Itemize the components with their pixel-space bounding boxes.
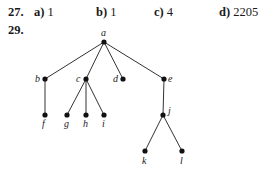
node-j	[160, 112, 165, 117]
node-b	[42, 76, 47, 81]
node-e	[161, 76, 166, 81]
node-k	[142, 148, 147, 153]
label-c: c	[76, 73, 81, 84]
node-c	[83, 76, 88, 81]
node-l	[179, 148, 184, 153]
label-k: k	[142, 155, 147, 166]
label-g: g	[64, 118, 69, 129]
tree-node-labels: a b c d e f g h i j k l	[35, 27, 183, 166]
label-i: i	[102, 118, 105, 129]
label-e: e	[168, 73, 173, 84]
label-l: l	[180, 155, 183, 166]
node-a	[101, 39, 106, 44]
node-g	[64, 112, 69, 117]
label-f: f	[42, 118, 46, 129]
edge-e-j	[163, 79, 164, 115]
tree-edges	[45, 42, 182, 151]
edge-j-k	[145, 115, 163, 151]
label-j: j	[166, 105, 171, 116]
edge-c-g	[67, 79, 86, 115]
label-d: d	[113, 73, 119, 84]
label-a: a	[101, 27, 106, 38]
label-h: h	[83, 118, 88, 129]
edge-c-i	[86, 79, 104, 115]
node-h	[83, 112, 88, 117]
rooted-tree-diagram: a b c d e f g h i j k l	[0, 0, 277, 177]
node-d	[120, 76, 125, 81]
label-b: b	[35, 73, 40, 84]
edge-j-l	[163, 115, 182, 151]
node-f	[42, 112, 47, 117]
node-i	[101, 112, 106, 117]
